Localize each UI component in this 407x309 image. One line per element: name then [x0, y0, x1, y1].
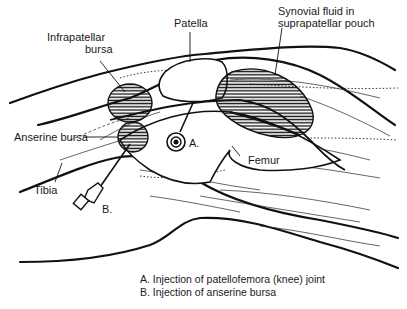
needle-a-label: A.	[189, 137, 199, 149]
infrapatellar-label-line2: bursa	[47, 43, 113, 55]
femur-label: Femur	[248, 154, 280, 166]
synovial-fluid-label: Synovial fluid in suprapatellar pouch	[278, 5, 375, 29]
anserine-bursa	[118, 122, 148, 152]
synovial-fluid-label-line1: Synovial fluid in	[278, 5, 375, 17]
synovial-fluid-label-line2: suprapatellar pouch	[278, 17, 375, 29]
infrapatellar-bursa	[108, 84, 152, 122]
caption-a: A. Injection of patellofemora (knee) joi…	[140, 273, 325, 286]
anserine-bursa-label: Anserine bursa	[14, 131, 88, 143]
infrapatellar-bursa-label: Infrapatellar bursa	[47, 31, 113, 55]
patella-label: Patella	[174, 17, 208, 29]
infrapatellar-label-line1: Infrapatellar	[47, 31, 113, 43]
needle-b	[73, 144, 130, 210]
needle-b-label: B.	[102, 203, 112, 215]
tibia-label: Tibia	[34, 184, 57, 196]
caption-b: B. Injection of anserine bursa	[140, 286, 276, 299]
